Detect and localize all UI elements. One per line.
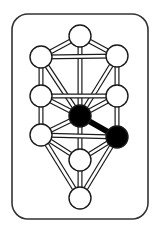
node-tiphareth: [69, 105, 91, 127]
node-left-upper: [30, 46, 52, 68]
node-right-middle: [106, 85, 128, 107]
node-malkuth: [69, 187, 91, 209]
node-left-lower: [30, 124, 52, 146]
node-kether: [69, 25, 91, 47]
node-left-middle: [30, 85, 52, 107]
tree-of-life-diagram: [0, 0, 162, 237]
node-yesod: [69, 149, 91, 171]
node-right-lower: [106, 126, 128, 148]
node-right-upper: [106, 45, 128, 67]
